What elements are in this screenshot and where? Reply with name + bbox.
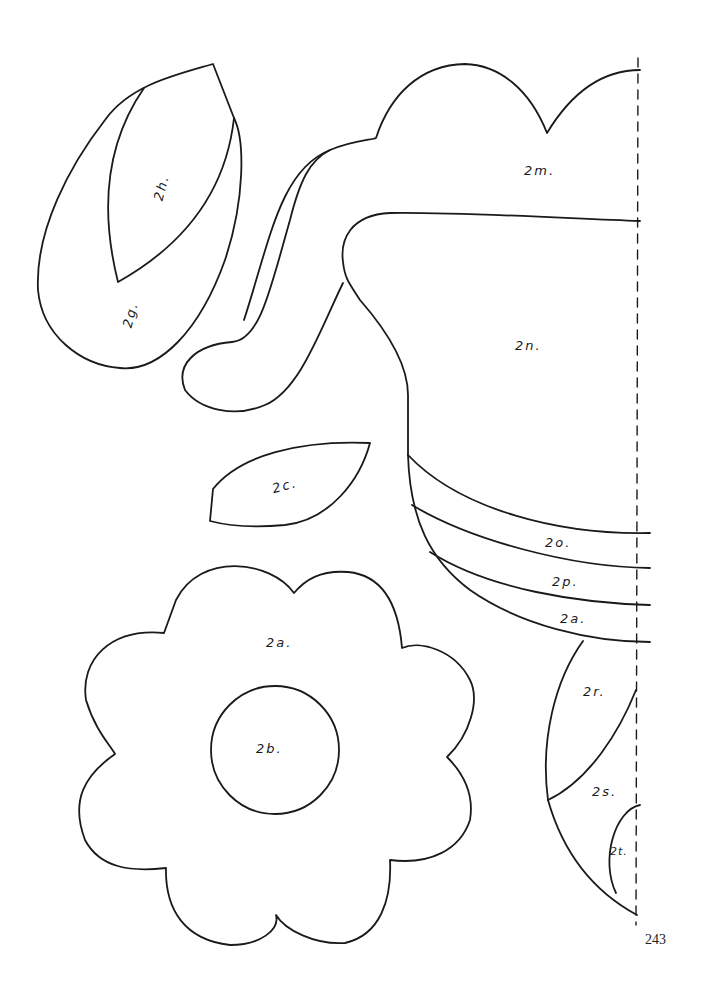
piece-2n-outline xyxy=(343,213,640,455)
label-2r: 2r. xyxy=(583,684,606,699)
label-2n: 2n. xyxy=(515,338,542,353)
page-number: 243 xyxy=(645,932,666,948)
label-2t: 2t. xyxy=(610,845,628,858)
fold-line xyxy=(636,58,638,925)
label-2q: 2a. xyxy=(560,611,586,626)
piece-2n-stem xyxy=(182,150,343,411)
label-2b: 2b. xyxy=(256,741,283,756)
pattern-drawing xyxy=(0,0,703,1001)
piece-2g-outline xyxy=(38,64,242,368)
label-2p: 2p. xyxy=(552,574,579,589)
band-line-3 xyxy=(430,552,650,605)
label-2m: 2m. xyxy=(524,163,555,178)
piece-2r-outline xyxy=(546,641,637,915)
label-2a: 2a. xyxy=(266,635,292,650)
label-2s: 2s. xyxy=(592,784,617,799)
label-2o: 2o. xyxy=(545,535,571,550)
band-line-2 xyxy=(412,505,650,568)
piece-2h-outline xyxy=(108,88,234,282)
piece-2m-outline xyxy=(244,64,640,320)
band-line-4 xyxy=(408,455,650,642)
pattern-page: 2h. 2g. 2m. 2n. 2c. 2o. 2p. 2a. 2a. 2b. … xyxy=(0,0,703,1001)
